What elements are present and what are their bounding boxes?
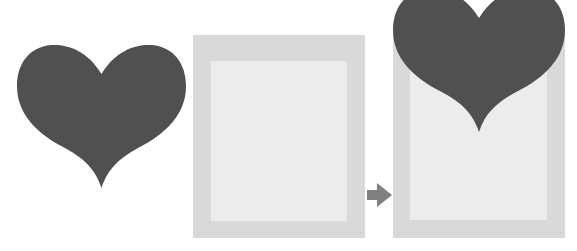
placed-heart: [393, 0, 565, 132]
source-heart: [17, 42, 186, 188]
empty-frame-inner: [211, 61, 347, 221]
empty-frame: [193, 35, 365, 238]
arrow-right-icon: [367, 183, 393, 207]
heart-icon: [17, 42, 186, 188]
heart-icon: [393, 0, 565, 132]
